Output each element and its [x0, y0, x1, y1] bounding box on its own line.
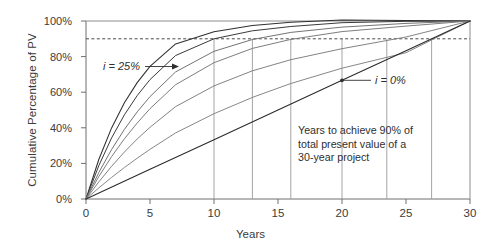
threshold-marker-gridlines: [214, 39, 432, 199]
series-line-i0: [86, 21, 470, 199]
y-tick-label-0: 0%: [24, 193, 72, 205]
annotation-note-block: Years to achieve 90% of total present va…: [298, 124, 468, 165]
y-tick-label-100: 100%: [24, 15, 72, 27]
x-tick-label-10: 10: [194, 207, 234, 219]
annotation-note-line-1: Years to achieve 90% of: [298, 124, 468, 138]
x-tick-label-15: 15: [258, 207, 298, 219]
y-axis-title: Cumulative Percentage of PV: [26, 10, 38, 210]
annotation-i25-label: i = 25%: [103, 60, 140, 72]
annotation-note-line-2: total present value of a: [298, 138, 468, 152]
y-tick-label-20: 20%: [24, 157, 72, 169]
annotation-i0-label: i = 0%: [375, 74, 406, 86]
x-tick-marks: [86, 199, 470, 204]
y-tick-label-60: 60%: [24, 86, 72, 98]
x-tick-label-20: 20: [322, 207, 362, 219]
x-tick-label-25: 25: [386, 207, 426, 219]
x-tick-label-0: 0: [66, 207, 106, 219]
annotation-note-line-3: 30-year project: [298, 151, 468, 165]
x-axis-title: Years: [0, 228, 501, 240]
y-tick-marks: [81, 21, 86, 199]
series-group: [86, 20, 470, 199]
y-tick-label-80: 80%: [24, 51, 72, 63]
x-tick-label-30: 30: [450, 207, 490, 219]
x-tick-label-5: 5: [130, 207, 170, 219]
y-tick-label-40: 40%: [24, 122, 72, 134]
